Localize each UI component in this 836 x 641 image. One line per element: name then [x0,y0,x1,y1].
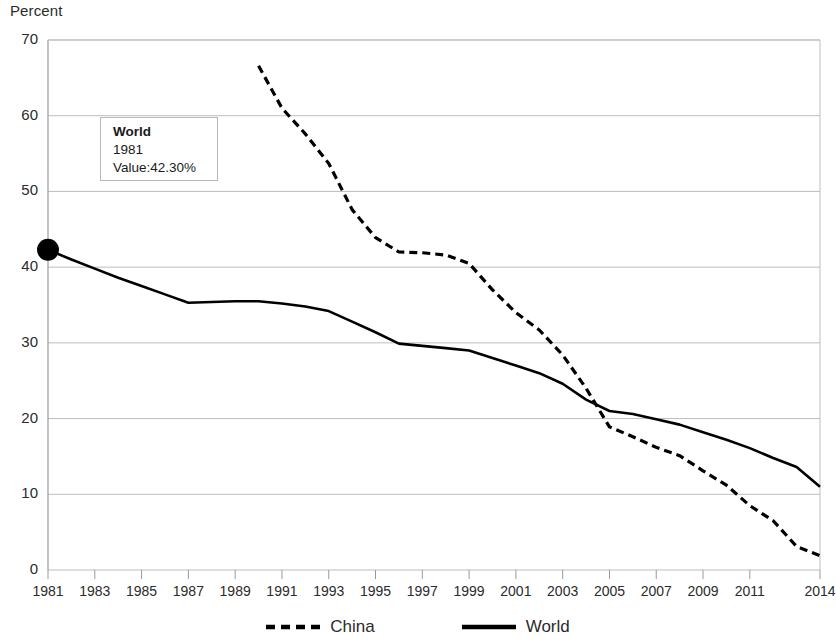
x-tick-label: 1987 [173,583,204,599]
tooltip-year: 1981 [113,141,217,159]
x-tick-label: 1989 [220,583,251,599]
series-line-china [259,66,820,556]
chart-legend: China World [0,612,835,641]
x-tick-label: 1995 [360,583,391,599]
x-tick-label: 1991 [266,583,297,599]
x-tick-label: 2003 [547,583,578,599]
data-point-tooltip: World 1981 Value:42.30% [100,117,218,181]
dashed-line-icon [265,621,321,633]
legend-label-china: China [330,617,374,637]
x-tick-label: 2009 [687,583,718,599]
y-tick-label: 0 [0,560,38,577]
tooltip-series-name: World [113,123,217,141]
y-tick-label: 70 [0,30,38,47]
x-tick-label: 2014 [804,583,835,599]
tooltip-value: Value:42.30% [113,159,217,177]
x-tick-label: 2005 [594,583,625,599]
x-tick-label: 1985 [126,583,157,599]
x-axis-ticks [48,570,820,579]
y-tick-label: 30 [0,333,38,350]
y-tick-label: 50 [0,181,38,198]
y-tick-label: 40 [0,257,38,274]
y-tick-label: 20 [0,409,38,426]
x-tick-label: 1997 [407,583,438,599]
x-tick-label: 2007 [641,583,672,599]
x-tick-label: 1981 [32,583,63,599]
legend-item-china[interactable]: China [265,617,374,637]
x-tick-label: 2011 [735,583,765,599]
y-tick-label: 60 [0,106,38,123]
x-tick-label: 1993 [313,583,344,599]
x-tick-label: 1999 [454,583,485,599]
highlight-marker [37,239,59,261]
y-tick-label: 10 [0,484,38,501]
selected-point-marker[interactable] [37,239,59,261]
x-tick-label: 2001 [500,583,531,599]
solid-line-icon [461,621,517,633]
legend-item-world[interactable]: World [461,617,570,637]
x-tick-label: 1983 [79,583,110,599]
legend-label-world: World [526,617,570,637]
series-line-world [48,250,820,487]
